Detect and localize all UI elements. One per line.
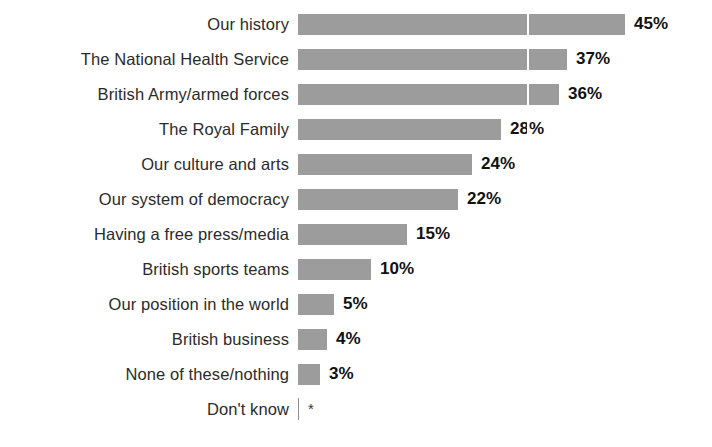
bar [298,224,407,245]
value-label: 5% [343,293,368,314]
bar [298,84,559,105]
category-label: Our history [0,14,289,35]
bar [298,364,320,385]
value-label: 22% [467,188,501,209]
category-label: Don't know [0,399,289,420]
value-label: 4% [336,328,361,349]
value-label: 3% [329,363,354,384]
bar [298,259,371,280]
axis-tick [298,398,299,420]
category-label: The National Health Service [0,49,289,70]
bar-fill [298,259,371,280]
bar-row: Our system of democracy22% [0,182,712,217]
bar [298,189,458,210]
bar [298,294,334,315]
category-label: British Army/armed forces [0,84,289,105]
category-label: British sports teams [0,259,289,280]
bar-row: Our history45% [0,7,712,42]
bar-fill [298,329,327,350]
category-label: Our culture and arts [0,154,289,175]
bar-fill [298,224,407,245]
value-label: 15% [416,223,450,244]
bar-row: Our culture and arts24% [0,147,712,182]
bar-chart: Our history45%The National Health Servic… [0,0,712,447]
bar-fill [298,84,559,105]
bar-fill [298,154,472,175]
bar [298,154,472,175]
bar-row: British business4% [0,322,712,357]
bar-row: The National Health Service37% [0,42,712,77]
bar [298,119,501,140]
bar-fill [298,14,625,35]
value-label: 24% [481,153,515,174]
category-label: None of these/nothing [0,364,289,385]
category-label: Our system of democracy [0,189,289,210]
bar-row: Having a free press/media15% [0,217,712,252]
bar-row: Don't know* [0,392,712,427]
bar-row: None of these/nothing3% [0,357,712,392]
value-label-asterisk: * [308,398,314,419]
bar-row: Our position in the world5% [0,287,712,322]
bar-fill [298,119,501,140]
bar-fill [298,294,334,315]
bar [298,329,327,350]
bar-fill [298,189,458,210]
category-label: Our position in the world [0,294,289,315]
bar [298,14,625,35]
value-label: 37% [576,48,610,69]
bar-row: The Royal Family28% [0,112,712,147]
value-label: 36% [568,83,602,104]
bar-row: British sports teams10% [0,252,712,287]
category-label: The Royal Family [0,119,289,140]
bar-row: British Army/armed forces36% [0,77,712,112]
value-label: 10% [380,258,414,279]
bar-fill [298,364,320,385]
value-label: 45% [634,13,668,34]
category-label: British business [0,329,289,350]
gridline [527,0,529,385]
category-label: Having a free press/media [0,224,289,245]
